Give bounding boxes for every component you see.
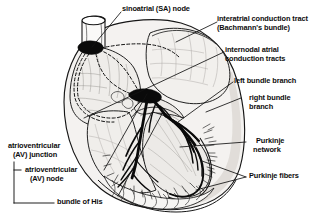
label-purkinje-network-line2: network: [253, 146, 281, 155]
label-left-bundle-branch: left bundle branch: [234, 77, 296, 86]
label-av-junction-line2: (AV) junction: [13, 151, 57, 160]
label-internodal-tracts-line2: conduction tracts: [225, 55, 285, 64]
heart-diagram-svg: [0, 0, 330, 220]
heart-conduction-figure: sinoatrial (SA) node interatrial conduct…: [0, 0, 330, 220]
label-purkinje-fibers: Purkinje fibers: [249, 172, 299, 181]
label-bundle-of-his: bundle of His: [57, 198, 103, 207]
label-right-bundle-branch-line2: branch: [249, 103, 273, 112]
label-sinoatrial-node: sinoatrial (SA) node: [122, 5, 190, 14]
sa-node-marker: [78, 41, 103, 55]
label-av-node-line2: (AV) node: [30, 175, 63, 184]
label-interatrial-tract-line2: (Bachmann's bundle): [217, 24, 290, 33]
